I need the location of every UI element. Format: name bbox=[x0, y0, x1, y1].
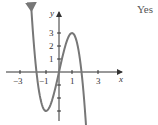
answer-text: Yes bbox=[137, 3, 153, 15]
cubic-graph: −3 −1 1 3 x 3 2 1 y bbox=[0, 0, 158, 125]
y-tick-label: 3 bbox=[49, 28, 54, 38]
x-axis-label: x bbox=[118, 74, 123, 84]
x-tick-label: −1 bbox=[39, 76, 49, 86]
y-tick-label: 2 bbox=[49, 41, 54, 51]
cubic-curve bbox=[31, 10, 87, 125]
x-tick-label: −3 bbox=[13, 76, 23, 86]
x-tick-label: 3 bbox=[96, 76, 101, 86]
y-axis-label: y bbox=[49, 8, 54, 18]
x-tick-label: 1 bbox=[70, 76, 75, 86]
y-tick-label: 1 bbox=[49, 54, 54, 64]
